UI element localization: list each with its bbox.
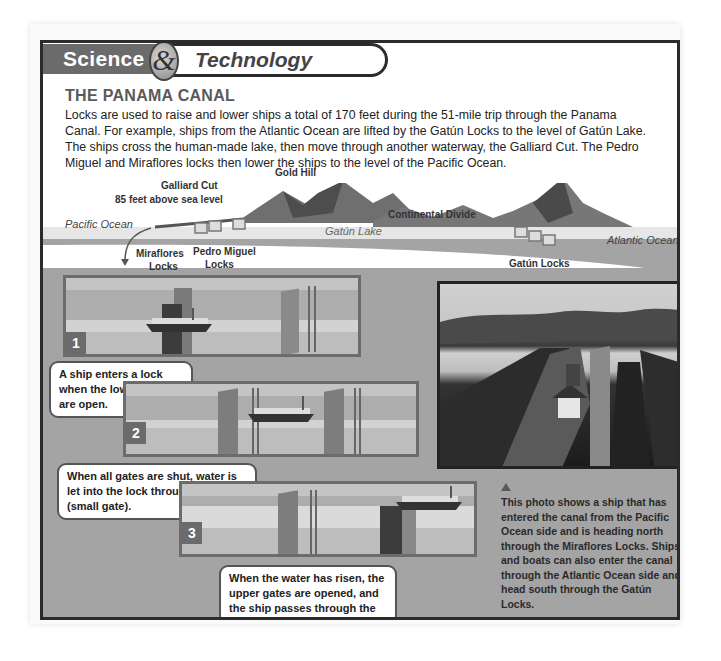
label-continental-divide: Continental Divide <box>388 209 476 220</box>
article-intro: Locks are used to raise and lower ships … <box>65 107 655 171</box>
lock-diagram-step-2: 2 <box>123 381 419 457</box>
ampersand-icon: & <box>149 41 179 81</box>
lock-diagram-step-1: 1 <box>63 275 361 357</box>
feature-header: Science <box>43 43 159 75</box>
label-miraflores-locks-1: Miraflores <box>136 248 184 259</box>
ship-icon <box>396 486 468 516</box>
ship-icon <box>248 396 320 426</box>
label-miraflores-locks-2: Locks <box>149 261 178 272</box>
label-atlantic-ocean: Atlantic Ocean <box>607 234 679 246</box>
miraflores-locks-photo <box>437 281 680 469</box>
label-gatun-lake: Gatún Lake <box>325 225 382 237</box>
label-galliard-cut: Galliard Cut <box>161 180 218 191</box>
technology-label: Technology <box>163 43 388 77</box>
label-galliard-height: 85 feet above sea level <box>115 194 223 205</box>
step-number-1: 1 <box>66 332 86 354</box>
step-number-3: 3 <box>182 522 202 544</box>
label-pedro-miguel-locks-1: Pedro Miguel <box>193 246 256 257</box>
lock-diagram-step-3: 3 <box>179 481 477 557</box>
photo-caption: This photo shows a ship that has entered… <box>501 495 680 611</box>
science-label: Science <box>43 44 159 74</box>
article-title: THE PANAMA CANAL <box>65 87 235 105</box>
step-3-caption: When the water has risen, the upper gate… <box>219 565 397 620</box>
label-gatun-locks: Gatún Locks <box>509 258 570 269</box>
science-technology-panel: Science & Technology THE PANAMA CANAL Lo… <box>40 40 680 620</box>
label-gold-hill: Gold Hill <box>275 167 316 178</box>
caption-pointer-icon <box>501 483 511 491</box>
step-number-2: 2 <box>126 422 146 444</box>
label-pedro-miguel-locks-2: Locks <box>205 259 234 270</box>
label-pacific-ocean: Pacific Ocean <box>65 218 133 230</box>
ship-icon <box>146 308 218 338</box>
